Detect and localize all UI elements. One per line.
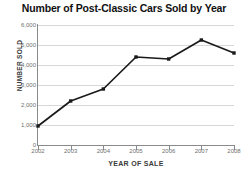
data-point-marker	[200, 38, 203, 41]
x-axis-tick-label: 2005	[121, 148, 151, 154]
chart-title: Number of Post-Classic Cars Sold by Year	[0, 2, 248, 14]
x-axis-label: YEAR OF SALE	[38, 160, 234, 167]
y-axis-label: NUMBER SOLD	[16, 31, 23, 101]
data-point-marker	[232, 51, 235, 54]
data-point-marker	[167, 57, 170, 60]
data-series-line	[38, 25, 234, 145]
data-point-marker	[69, 99, 72, 102]
series-polyline	[38, 40, 234, 126]
x-axis-tick-label: 2006	[154, 148, 184, 154]
chart-container: Number of Post-Classic Cars Sold by Year…	[0, 0, 248, 179]
x-axis-tick-label: 2004	[88, 148, 118, 154]
y-axis-tick-label: 6,000	[2, 22, 36, 28]
x-axis-tick-label: 2003	[56, 148, 86, 154]
x-axis-tick-label: 2008	[219, 148, 248, 154]
data-point-marker	[134, 55, 137, 58]
data-point-marker	[36, 124, 39, 127]
x-axis-tick-label: 2002	[23, 148, 53, 154]
y-axis-tick-label: 2,000	[2, 102, 36, 108]
y-axis-tick-label: 0	[2, 142, 36, 148]
y-axis-tick-label: 1,000	[2, 122, 36, 128]
x-axis-tick-label: 2007	[186, 148, 216, 154]
data-point-marker	[102, 87, 105, 90]
